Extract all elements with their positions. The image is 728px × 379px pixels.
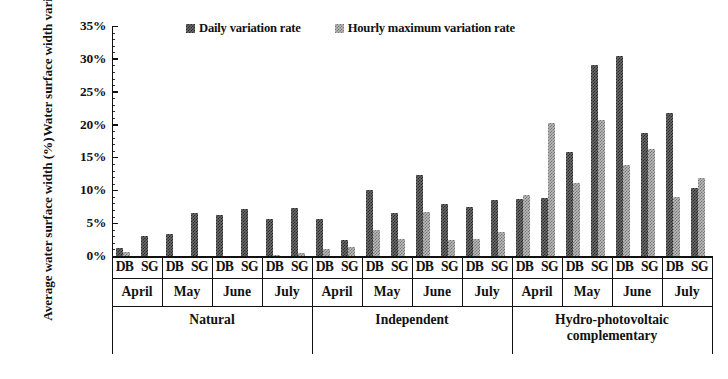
bar-hourly-max-variation-rate [673,197,680,256]
bar-hourly-max-variation-rate [598,120,605,256]
axis-site-label-db: DB [212,256,237,278]
bar-daily-variation-rate [341,240,348,256]
axis-month-label: July [462,278,512,306]
axis-site-label-sg: SG [487,256,512,278]
axis-table-scenario-divider [512,306,513,354]
axis-table-scenario-divider [112,306,113,354]
bar-hourly-max-variation-rate [648,149,655,256]
bar-daily-variation-rate [291,208,298,256]
axis-site-label-sg: SG [537,256,562,278]
y-axis-tick-label: 5% [64,215,106,231]
axis-table-month-divider [312,256,313,306]
bar-hourly-max-variation-rate [523,195,530,256]
bar-hourly-max-variation-rate [498,232,505,256]
axis-month-label: June [212,278,262,306]
bar-daily-variation-rate [266,219,273,256]
category-axis-table: DBSGAprilDBSGMayDBSGJuneDBSGJulyDBSGApri… [112,256,713,356]
bar-hourly-max-variation-rate [423,212,430,256]
bar-daily-variation-rate [666,113,673,256]
bar-daily-variation-rate [316,219,323,256]
chart-figure: Water surface width variation / Average … [0,0,728,379]
axis-table-month-divider [562,256,563,306]
axis-site-label-db: DB [612,256,637,278]
axis-month-label: July [662,278,712,306]
axis-site-label-db: DB [262,256,287,278]
axis-table-month-divider [362,256,363,306]
axis-site-label-sg: SG [587,256,612,278]
bar-daily-variation-rate [466,207,473,256]
axis-site-label-sg: SG [287,256,312,278]
y-axis-title-line2: Average water surface width (%) [40,138,55,321]
axis-table-month-divider [112,256,113,306]
axis-table-month-divider [412,256,413,306]
bar-hourly-max-variation-rate [698,178,705,256]
axis-site-label-db: DB [362,256,387,278]
axis-site-label-sg: SG [687,256,712,278]
axis-table-month-divider [162,256,163,306]
axis-table-month-divider [262,256,263,306]
axis-table-month-divider [462,256,463,306]
axis-site-label-db: DB [662,256,687,278]
y-axis-tick-label: 35% [64,18,106,34]
y-axis-title: Water surface width variation / Average … [27,17,67,267]
bar-daily-variation-rate [691,188,698,256]
axis-site-label-db: DB [312,256,337,278]
axis-month-label: April [512,278,562,306]
axis-month-label: July [262,278,312,306]
bar-daily-variation-rate [566,152,573,256]
bar-daily-variation-rate [141,236,148,256]
axis-site-label-sg: SG [337,256,362,278]
bar-daily-variation-rate [391,213,398,256]
axis-table-scenario-divider [312,306,313,354]
y-axis-tick-label: 0% [64,248,106,264]
axis-month-label: May [162,278,212,306]
axis-month-label: June [412,278,462,306]
axis-site-label-db: DB [512,256,537,278]
axis-scenario-label: Hydro-photovoltaic complementary [512,306,712,354]
y-axis-title-line1: Water surface width variation / [40,0,55,137]
bar-daily-variation-rate [116,248,123,256]
axis-table-month-divider [212,256,213,306]
axis-site-label-sg: SG [137,256,162,278]
axis-month-label: June [612,278,662,306]
bar-daily-variation-rate [516,199,523,256]
bar-daily-variation-rate [366,190,373,256]
axis-site-label-db: DB [562,256,587,278]
axis-month-label: April [112,278,162,306]
bar-daily-variation-rate [441,204,448,256]
axis-site-label-sg: SG [437,256,462,278]
bar-hourly-max-variation-rate [473,239,480,256]
y-axis-tick-label: 10% [64,182,106,198]
axis-table-month-divider [612,256,613,306]
axis-site-label-db: DB [462,256,487,278]
bar-hourly-max-variation-rate [548,123,555,256]
bar-hourly-max-variation-rate [348,247,355,256]
axis-site-label-db: DB [112,256,137,278]
bar-series-container [112,26,712,256]
y-axis-tick-label: 25% [64,84,106,100]
bar-hourly-max-variation-rate [373,230,380,256]
axis-site-label-db: DB [162,256,187,278]
axis-month-label: April [312,278,362,306]
bar-hourly-max-variation-rate [398,239,405,256]
axis-site-label-db: DB [412,256,437,278]
bar-daily-variation-rate [166,234,173,256]
bar-hourly-max-variation-rate [448,240,455,256]
bar-daily-variation-rate [216,215,223,256]
bar-daily-variation-rate [616,56,623,256]
y-axis-tick-label: 15% [64,149,106,165]
bar-daily-variation-rate [241,209,248,256]
axis-site-label-sg: SG [237,256,262,278]
bar-daily-variation-rate [191,213,198,256]
axis-table-month-divider [712,256,713,306]
axis-scenario-label: Natural [112,306,312,354]
y-axis-tick-label: 20% [64,117,106,133]
axis-site-label-sg: SG [187,256,212,278]
bar-daily-variation-rate [591,65,598,256]
axis-table-scenario-divider [712,306,713,354]
bar-daily-variation-rate [641,133,648,256]
bar-hourly-max-variation-rate [623,165,630,256]
bar-hourly-max-variation-rate [573,183,580,256]
y-axis-tick-label: 30% [64,51,106,67]
bar-daily-variation-rate [416,175,423,256]
